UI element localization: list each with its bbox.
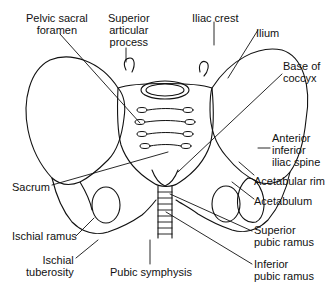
left-pubis-ischium: [52, 178, 156, 234]
label-ilium: Ilium: [256, 27, 279, 39]
label-superior-pubic-ramus: Superior pubic ramus: [254, 224, 314, 248]
label-iliac-crest: Iliac crest: [192, 12, 238, 24]
label-inferior-pubic-ramus: Inferior pubic ramus: [254, 258, 314, 282]
label-ischial-ramus: Ischial ramus: [12, 230, 77, 242]
label-ischial-tuberosity: Ischial tuberosity: [26, 254, 74, 278]
label-superior-articular-process: Superior articular process: [108, 12, 150, 48]
coccyx: [152, 170, 178, 186]
label-acetabular-rim: Acetabular rim: [254, 175, 325, 187]
label-anterior-inferior-iliac-spine: Anterior inferior iliac spine: [272, 132, 320, 168]
right-obturator-foramen: [212, 186, 240, 222]
label-pelvic-sacral-foramen: Pelvic sacral foramen: [26, 12, 88, 36]
left-ilium: [26, 57, 125, 184]
sacral-foramina: [135, 108, 195, 149]
label-base-of-coccyx: Base of coccyx: [283, 60, 320, 84]
label-sacrum: Sacrum: [12, 181, 50, 193]
label-pubic-symphysis: Pubic symphysis: [110, 266, 192, 278]
left-obturator-foramen: [92, 187, 120, 223]
label-acetabulum: Acetabulum: [254, 195, 312, 207]
